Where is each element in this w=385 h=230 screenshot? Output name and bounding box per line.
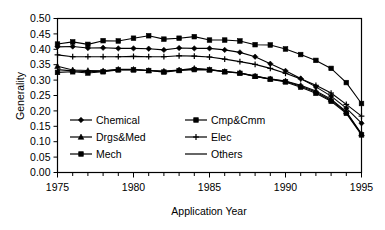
series-mech: [55, 67, 364, 137]
data-point-marker: [207, 46, 212, 51]
y-tick-label: 0.15: [30, 120, 51, 132]
x-tick-label: 1995: [350, 181, 374, 193]
data-point-marker: [100, 54, 106, 60]
data-point-marker: [194, 118, 199, 123]
data-point-marker: [100, 45, 105, 50]
x-tick-label: 1980: [122, 181, 146, 193]
x-tick-label: 1975: [46, 181, 70, 193]
y-axis-title: Generality: [14, 71, 26, 120]
chart-legend: ChemicalCmp&CmmDrgs&MedElecMechOthers: [70, 114, 266, 160]
data-point-marker: [146, 33, 151, 38]
generality-line-chart: 0.000.050.100.150.200.250.300.350.400.45…: [0, 0, 385, 230]
legend-label: Chemical: [96, 114, 140, 126]
data-point-marker: [146, 54, 152, 60]
legend-label: Elec: [211, 131, 231, 143]
data-point-marker: [115, 54, 121, 60]
chart-figure: 0.000.050.100.150.200.250.300.350.400.45…: [0, 0, 385, 230]
data-point-marker: [116, 46, 121, 51]
data-point-marker: [79, 152, 84, 157]
data-point-marker: [192, 34, 197, 39]
data-point-marker: [314, 58, 319, 63]
data-point-marker: [70, 69, 75, 74]
data-point-marker: [252, 54, 257, 59]
y-tick-label: 0.30: [30, 74, 51, 86]
data-point-marker: [252, 61, 258, 67]
y-tick-label: 0.00: [30, 166, 51, 178]
data-point-marker: [344, 80, 349, 85]
data-point-marker: [176, 53, 182, 59]
data-point-marker: [70, 54, 76, 60]
x-axis-title: Application Year: [171, 205, 247, 217]
y-tick-label: 0.35: [30, 58, 51, 70]
data-point-marker: [146, 46, 151, 51]
legend-item-drgs-med[interactable]: Drgs&Med: [70, 131, 146, 143]
legend-label: Others: [211, 148, 243, 160]
y-tick-label: 0.50: [30, 12, 51, 24]
legend-item-elec[interactable]: Elec: [185, 131, 231, 143]
data-point-marker: [222, 56, 228, 62]
data-point-marker: [162, 37, 167, 42]
legend-item-cmp-cmm[interactable]: Cmp&Cmm: [185, 114, 266, 126]
data-point-marker: [267, 65, 273, 71]
data-point-marker: [86, 42, 91, 47]
data-point-marker: [55, 42, 60, 47]
y-tick-label: 0.05: [30, 151, 51, 163]
data-point-marker: [192, 46, 197, 51]
data-point-marker: [131, 36, 136, 41]
y-tick-label: 0.40: [30, 43, 51, 55]
legend-item-others[interactable]: Others: [185, 148, 243, 160]
y-axis-tick-labels: 0.000.050.100.150.200.250.300.350.400.45…: [30, 12, 51, 178]
data-point-marker: [55, 63, 61, 68]
data-point-marker: [85, 54, 91, 60]
data-point-marker: [268, 43, 273, 48]
data-point-marker: [78, 117, 83, 122]
data-point-marker: [298, 76, 304, 82]
data-point-marker: [70, 44, 75, 49]
legend-item-chemical[interactable]: Chemical: [70, 114, 140, 126]
y-tick-label: 0.20: [30, 105, 51, 117]
data-point-marker: [207, 54, 213, 60]
legend-label: Drgs&Med: [96, 131, 146, 143]
data-point-marker: [116, 39, 121, 44]
data-point-marker: [222, 38, 227, 43]
data-point-marker: [161, 47, 166, 52]
x-tick-label: 1985: [198, 181, 222, 193]
data-point-marker: [162, 70, 167, 75]
data-point-marker: [176, 45, 181, 50]
data-point-marker: [207, 38, 212, 43]
data-point-marker: [238, 39, 243, 44]
y-tick-label: 0.45: [30, 28, 51, 40]
data-point-marker: [283, 47, 288, 52]
data-point-marker: [131, 46, 136, 51]
data-point-marker: [222, 47, 227, 52]
data-point-marker: [359, 101, 364, 106]
data-point-marker: [298, 52, 303, 57]
data-point-marker: [237, 59, 243, 65]
data-point-marker: [177, 36, 182, 41]
data-point-marker: [191, 53, 197, 59]
data-point-marker: [131, 53, 137, 59]
data-point-marker: [253, 42, 258, 47]
data-point-marker: [237, 50, 242, 55]
y-tick-label: 0.25: [30, 89, 51, 101]
data-point-marker: [101, 38, 106, 43]
data-point-marker: [70, 40, 75, 45]
x-axis-ticks: [58, 173, 362, 178]
legend-label: Cmp&Cmm: [211, 114, 266, 126]
data-point-marker: [161, 54, 167, 60]
y-tick-label: 0.10: [30, 135, 51, 147]
data-point-marker: [329, 66, 334, 71]
data-point-marker: [193, 134, 199, 140]
data-point-marker: [359, 133, 364, 138]
data-point-marker: [55, 70, 60, 75]
legend-label: Mech: [96, 148, 122, 160]
data-point-marker: [55, 52, 61, 58]
legend-item-mech[interactable]: Mech: [70, 148, 122, 160]
x-axis-tick-labels: 19751980198519901995: [46, 181, 374, 193]
x-tick-label: 1990: [274, 181, 298, 193]
